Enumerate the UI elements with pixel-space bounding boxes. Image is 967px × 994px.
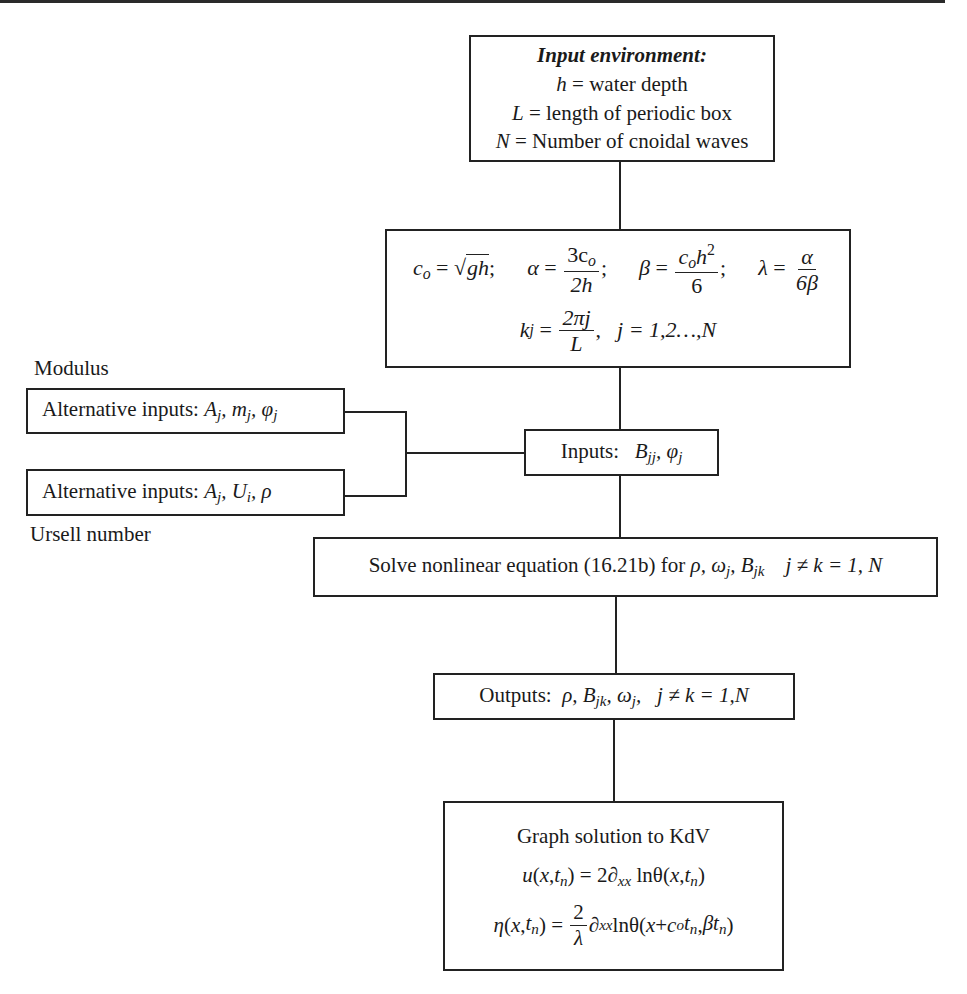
solve-nonlinear-box: Solve nonlinear equation (16.21b) for ρ,… <box>313 537 938 597</box>
graph-solution-box: Graph solution to KdV u(x,tn) = 2∂xx lnθ… <box>443 801 784 971</box>
connector-solve-to-outputs <box>615 597 617 673</box>
graph-title: Graph solution to KdV <box>517 822 710 851</box>
top-rule <box>0 0 945 3</box>
kdv-eta-equation: η(x,tn) = 2λ∂xx lnθ(x + co tn, βtn) <box>493 900 733 949</box>
connector-params-to-inputs <box>619 368 621 429</box>
alpha-definition: α = 3co2h; <box>527 242 607 297</box>
env-line-wave-count: N = Number of cnoidal waves <box>496 127 749 156</box>
beta-definition: β = coh26; <box>639 241 726 299</box>
c0-definition: co = √gh; <box>413 255 495 283</box>
input-environment-box: Input environment: h = water depth L = l… <box>469 35 775 162</box>
connector-env-to-params <box>619 162 621 229</box>
env-line-box-length: L = length of periodic box <box>512 99 732 128</box>
parameter-definitions: co = √gh; α = 3co2h; β = coh26; λ = α6β <box>413 241 823 299</box>
outputs-box: Outputs: ρ, Bjk, ωj, j ≠ k = 1,N <box>433 673 795 720</box>
bracket-top-arm <box>345 411 407 413</box>
connector-inputs-to-solve <box>619 476 621 537</box>
lambda-definition: λ = α6β <box>758 244 823 296</box>
outputs-range: j ≠ k = 1,N <box>657 683 749 707</box>
input-environment-title: Input environment: <box>537 41 707 70</box>
inputs-box: Inputs: Bjj, φj <box>524 429 719 476</box>
env-line-water-depth: h = water depth <box>556 70 687 99</box>
bracket-bottom-arm <box>345 495 407 497</box>
alternative-inputs-modulus-box: Alternative inputs: Aj, mj, φj <box>26 388 345 434</box>
bracket-to-inputs <box>405 452 524 454</box>
j-range: j = 1,2…,N <box>617 317 716 343</box>
alternative-inputs-ursell-box: Alternative inputs: Aj, Ui, ρ <box>26 469 345 516</box>
modulus-label: Modulus <box>34 356 109 381</box>
connector-outputs-to-graph <box>613 720 615 801</box>
parameters-box: co = √gh; α = 3co2h; β = coh26; λ = α6β … <box>385 229 851 368</box>
ursell-number-label: Ursell number <box>30 522 151 547</box>
wavenumber-definition: kj = 2πjL, j = 1,2…,N <box>520 305 716 357</box>
solve-range: j ≠ k = 1, N <box>785 553 882 577</box>
kdv-u-equation: u(x,tn) = 2∂xx lnθ(x,tn) <box>522 861 705 892</box>
bracket-spine <box>405 411 407 497</box>
